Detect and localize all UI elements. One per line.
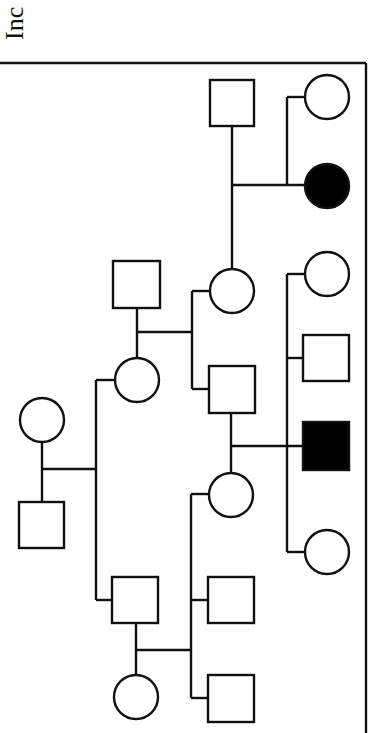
affected-female-symbol bbox=[305, 164, 349, 208]
female-symbol bbox=[20, 398, 64, 442]
male-symbol bbox=[19, 502, 64, 548]
pedigree-figure: Inc bbox=[0, 0, 368, 733]
female-symbol bbox=[305, 252, 349, 296]
male-symbol bbox=[209, 366, 255, 413]
female-symbol bbox=[210, 269, 254, 313]
female-symbol bbox=[209, 473, 253, 517]
male-symbol bbox=[303, 335, 349, 381]
male-symbol bbox=[208, 577, 254, 623]
male-symbol bbox=[112, 577, 158, 623]
female-symbol bbox=[114, 675, 158, 719]
male-symbol bbox=[210, 80, 254, 126]
affected-male-symbol bbox=[303, 422, 349, 470]
male-symbol bbox=[208, 675, 254, 722]
pedigree-lines bbox=[42, 97, 305, 698]
male-symbol bbox=[113, 261, 160, 308]
female-symbol bbox=[305, 530, 349, 574]
female-symbol bbox=[305, 75, 349, 119]
pedigree-chart bbox=[0, 0, 368, 733]
female-symbol bbox=[115, 358, 159, 402]
